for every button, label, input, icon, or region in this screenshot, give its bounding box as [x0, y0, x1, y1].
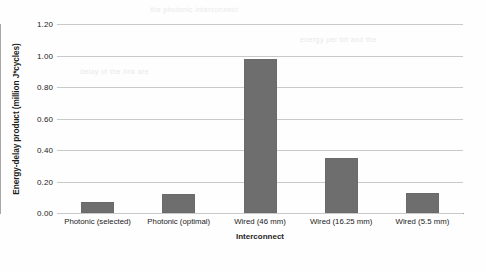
x-tick-label: Photonic (selected) [57, 217, 138, 226]
bar [325, 158, 358, 213]
y-tick-label: 0.80 [7, 83, 53, 92]
bar-series [57, 24, 463, 213]
x-tick-label: Wired (5.5 mm) [382, 217, 463, 226]
gridline [57, 213, 463, 214]
y-tick-label: 0.40 [7, 146, 53, 155]
y-tick-label: 1.20 [7, 20, 53, 29]
bar [162, 194, 195, 213]
y-tick-label: 0.00 [7, 209, 53, 218]
bar [244, 59, 277, 213]
y-tick-label: 0.20 [7, 177, 53, 186]
y-axis-ticks: 0.000.200.400.600.801.001.20 [5, 0, 53, 272]
y-tick-label: 0.60 [7, 114, 53, 123]
y-axis-line [0, 24, 1, 214]
x-tick-label: Wired (46 mm) [219, 217, 300, 226]
x-tick-label: Wired (16.25 mm) [301, 217, 382, 226]
bar [406, 193, 439, 213]
x-tick-label: Photonic (optimal) [138, 217, 219, 226]
x-axis-title: Interconnect [57, 232, 463, 241]
bar-chart: the photonic interconnect energy per bit… [0, 0, 486, 272]
bar [81, 202, 114, 213]
bleed-artifact: the photonic interconnect [150, 4, 238, 15]
y-tick-label: 1.00 [7, 51, 53, 60]
